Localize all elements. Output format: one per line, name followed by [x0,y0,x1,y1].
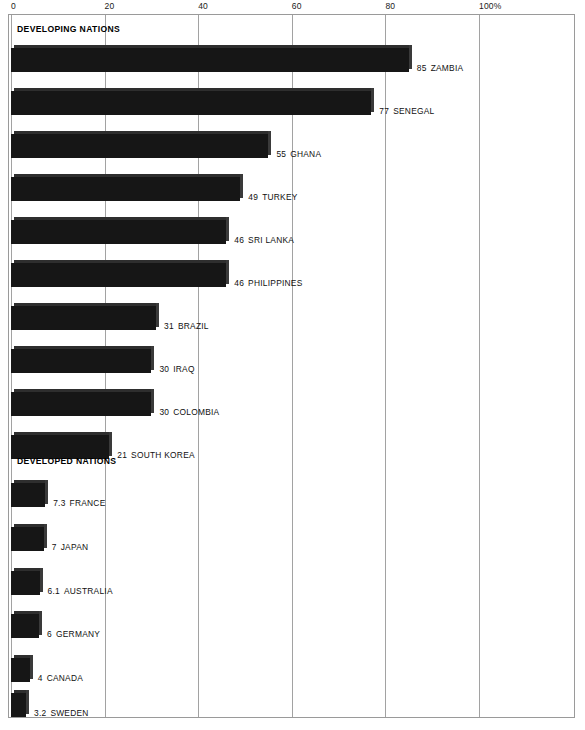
bar-row [11,392,155,416]
x-axis-tick-0: 0 [11,1,16,11]
bar-country-name: SWEDEN [50,708,88,718]
bar-row [11,91,375,115]
gridline-100 [479,15,480,717]
bar-side-facet [26,690,29,714]
bar-germany [11,614,39,638]
bar-sri-lanka [11,220,226,244]
bar-country-name: PHILIPPINES [248,278,302,288]
bar-country-name: TURKEY [262,192,297,202]
bar-top-facet [14,611,42,614]
bar-label-senegal: 77SENEGAL [379,106,434,116]
bar-side-facet [156,303,159,327]
bar-row [11,263,230,287]
bar-country-name: SOUTH KOREA [131,450,195,460]
bar-label-turkey: 49TURKEY [248,192,297,202]
bar-value: 21 [117,450,127,460]
bar-row [11,349,155,373]
bar-row [11,693,30,717]
bar-top-facet [14,524,47,527]
bar-country-name: GERMANY [56,629,100,639]
bar-label-germany: 6GERMANY [47,629,100,639]
bar-side-facet [109,432,112,456]
bar-top-facet [14,568,43,571]
bar-value: 85 [417,63,427,73]
bar-label-philippines: 46PHILIPPINES [234,278,302,288]
bar-top-facet [14,389,154,392]
plot-area: DEVELOPING NATIONSDEVELOPED NATIONS 85ZA… [8,14,575,718]
bar-value: 31 [164,321,174,331]
bar-australia [11,571,40,595]
bar-country-name: ZAMBIA [431,63,464,73]
bar-side-facet [226,260,229,284]
bar-top-facet [14,346,154,349]
bar-row [11,48,413,72]
bar-value: 4 [38,673,43,683]
bar-country-name: CANADA [47,673,83,683]
bar-side-facet [240,174,243,198]
bar-turkey [11,177,240,201]
bar-country-name: GHANA [290,149,321,159]
bar-row [11,483,49,507]
bar-label-sri-lanka: 46SRI LANKA [234,235,294,245]
bar-value: 3.2 [34,708,46,718]
bar-country-name: COLOMBIA [173,407,219,417]
bar-side-facet [44,524,47,548]
x-axis-tick-100: 100% [479,1,502,11]
bar-label-canada: 4CANADA [38,673,83,683]
bar-side-facet [151,389,154,413]
bar-value: 46 [234,235,244,245]
bar-france [11,483,45,507]
bar-zambia [11,48,409,72]
bar-sweden [11,693,26,717]
x-axis-tick-80: 80 [385,1,395,11]
gridline-40 [198,15,199,717]
bar-top-facet [14,303,159,306]
gridline-80 [385,15,386,717]
bar-top-facet [14,217,229,220]
bar-label-colombia: 30COLOMBIA [159,407,219,417]
bar-label-ghana: 55GHANA [276,149,321,159]
x-axis-tick-60: 60 [292,1,302,11]
bar-value: 46 [234,278,244,288]
bar-value: 6 [47,629,52,639]
bar-value: 55 [276,149,286,159]
bar-row [11,220,230,244]
bar-value: 30 [159,364,169,374]
bar-side-facet [268,131,271,155]
x-axis-labels: 020406080100% [0,0,585,14]
bar-label-zambia: 85ZAMBIA [417,63,464,73]
bar-brazil [11,306,156,330]
bar-value: 77 [379,106,389,116]
bar-row [11,658,34,682]
bar-country-name: JAPAN [61,542,89,552]
bar-top-facet [14,174,243,177]
bar-chart: 020406080100% DEVELOPING NATIONSDEVELOPE… [0,0,585,730]
bar-country-name: SRI LANKA [248,235,294,245]
section-header-developing: DEVELOPING NATIONS [17,24,120,34]
bar-value: 6.1 [48,586,60,596]
bar-label-france: 7.3FRANCE [53,498,105,508]
bar-japan [11,527,44,551]
bar-value: 30 [159,407,169,417]
bar-top-facet [14,260,229,263]
bar-side-facet [45,480,48,504]
bar-side-facet [151,346,154,370]
bar-row [11,134,272,158]
bar-side-facet [409,45,412,69]
bar-top-facet [14,432,112,435]
bar-label-south-korea: 21SOUTH KOREA [117,450,195,460]
bar-top-facet [14,480,48,483]
bar-label-japan: 7JAPAN [52,542,89,552]
bar-side-facet [40,568,43,592]
bar-iraq [11,349,151,373]
bar-row [11,527,48,551]
bar-top-facet [14,131,271,134]
gridline-60 [292,15,293,717]
bar-value: 7 [52,542,57,552]
bar-row [11,177,244,201]
bar-country-name: BRAZIL [178,321,209,331]
bar-colombia [11,392,151,416]
bar-label-sweden: 3.2SWEDEN [34,708,89,718]
bar-canada [11,658,30,682]
bar-row [11,571,44,595]
